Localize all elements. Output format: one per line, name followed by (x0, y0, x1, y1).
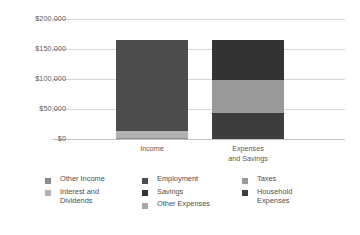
legend-label: Employment (157, 174, 198, 184)
x-category-label-expenses-and-savings: Expenses and Savings (193, 144, 303, 163)
legend-swatch-icon (141, 202, 149, 210)
legend-swatch-icon (141, 189, 149, 197)
legend-swatch-icon (44, 189, 52, 197)
legend-column-1: Other Income Interest and Dividends (44, 174, 105, 208)
bar-segment-taxes[interactable] (212, 80, 284, 113)
bar-segment-employment[interactable] (116, 40, 188, 131)
bar-segment-other-income[interactable] (116, 138, 188, 139)
plot-area: $200,000 $150,000 $100,000 $50,000 $0 In… (0, 0, 360, 170)
x-category-label-income: Income (97, 144, 207, 154)
bar-segment-household-expenses[interactable] (212, 113, 284, 139)
legend-label: Interest and Dividends (60, 187, 99, 206)
gridline-50000 (57, 109, 345, 110)
y-tick-label-50000: $50,000 (0, 105, 66, 113)
legend-item[interactable]: Other Expenses (141, 199, 210, 210)
legend-label: Taxes (257, 174, 276, 184)
y-tick-label-150000: $150,000 (0, 45, 66, 53)
legend-item[interactable]: Interest and Dividends (44, 187, 105, 206)
legend-item[interactable]: Household Expenses (241, 187, 292, 206)
legend-swatch-icon (141, 177, 149, 185)
gridline-150000 (57, 49, 345, 50)
legend-column-2: Employment Savings Other Expenses (141, 174, 210, 212)
bar-expenses-and-savings[interactable] (212, 40, 284, 139)
legend-label: Household Expenses (257, 187, 292, 206)
chart-legend: Other Income Interest and Dividends Empl… (0, 174, 360, 232)
legend-column-3: Taxes Household Expenses (241, 174, 292, 208)
legend-item[interactable]: Employment (141, 174, 210, 185)
legend-item[interactable]: Taxes (241, 174, 292, 185)
bar-income[interactable] (116, 40, 188, 139)
gridline-200000 (57, 19, 345, 20)
bar-segment-savings[interactable] (212, 40, 284, 80)
legend-label: Other Expenses (157, 199, 210, 209)
legend-label: Other Income (60, 174, 105, 184)
legend-swatch-icon (241, 189, 249, 197)
legend-label: Savings (157, 187, 183, 197)
legend-swatch-icon (44, 177, 52, 185)
bar-segment-interest-and-dividends[interactable] (116, 131, 188, 138)
y-tick-label-0: $0 (0, 135, 66, 143)
y-tick-label-100000: $100,000 (0, 75, 66, 83)
gridline-100000 (57, 79, 345, 80)
legend-item[interactable]: Other Income (44, 174, 105, 185)
stacked-bar-chart: $200,000 $150,000 $100,000 $50,000 $0 In… (0, 0, 360, 235)
legend-swatch-icon (241, 177, 249, 185)
legend-item[interactable]: Savings (141, 187, 210, 198)
gridline-0 (57, 139, 345, 140)
y-tick-label-200000: $200,000 (0, 15, 66, 23)
